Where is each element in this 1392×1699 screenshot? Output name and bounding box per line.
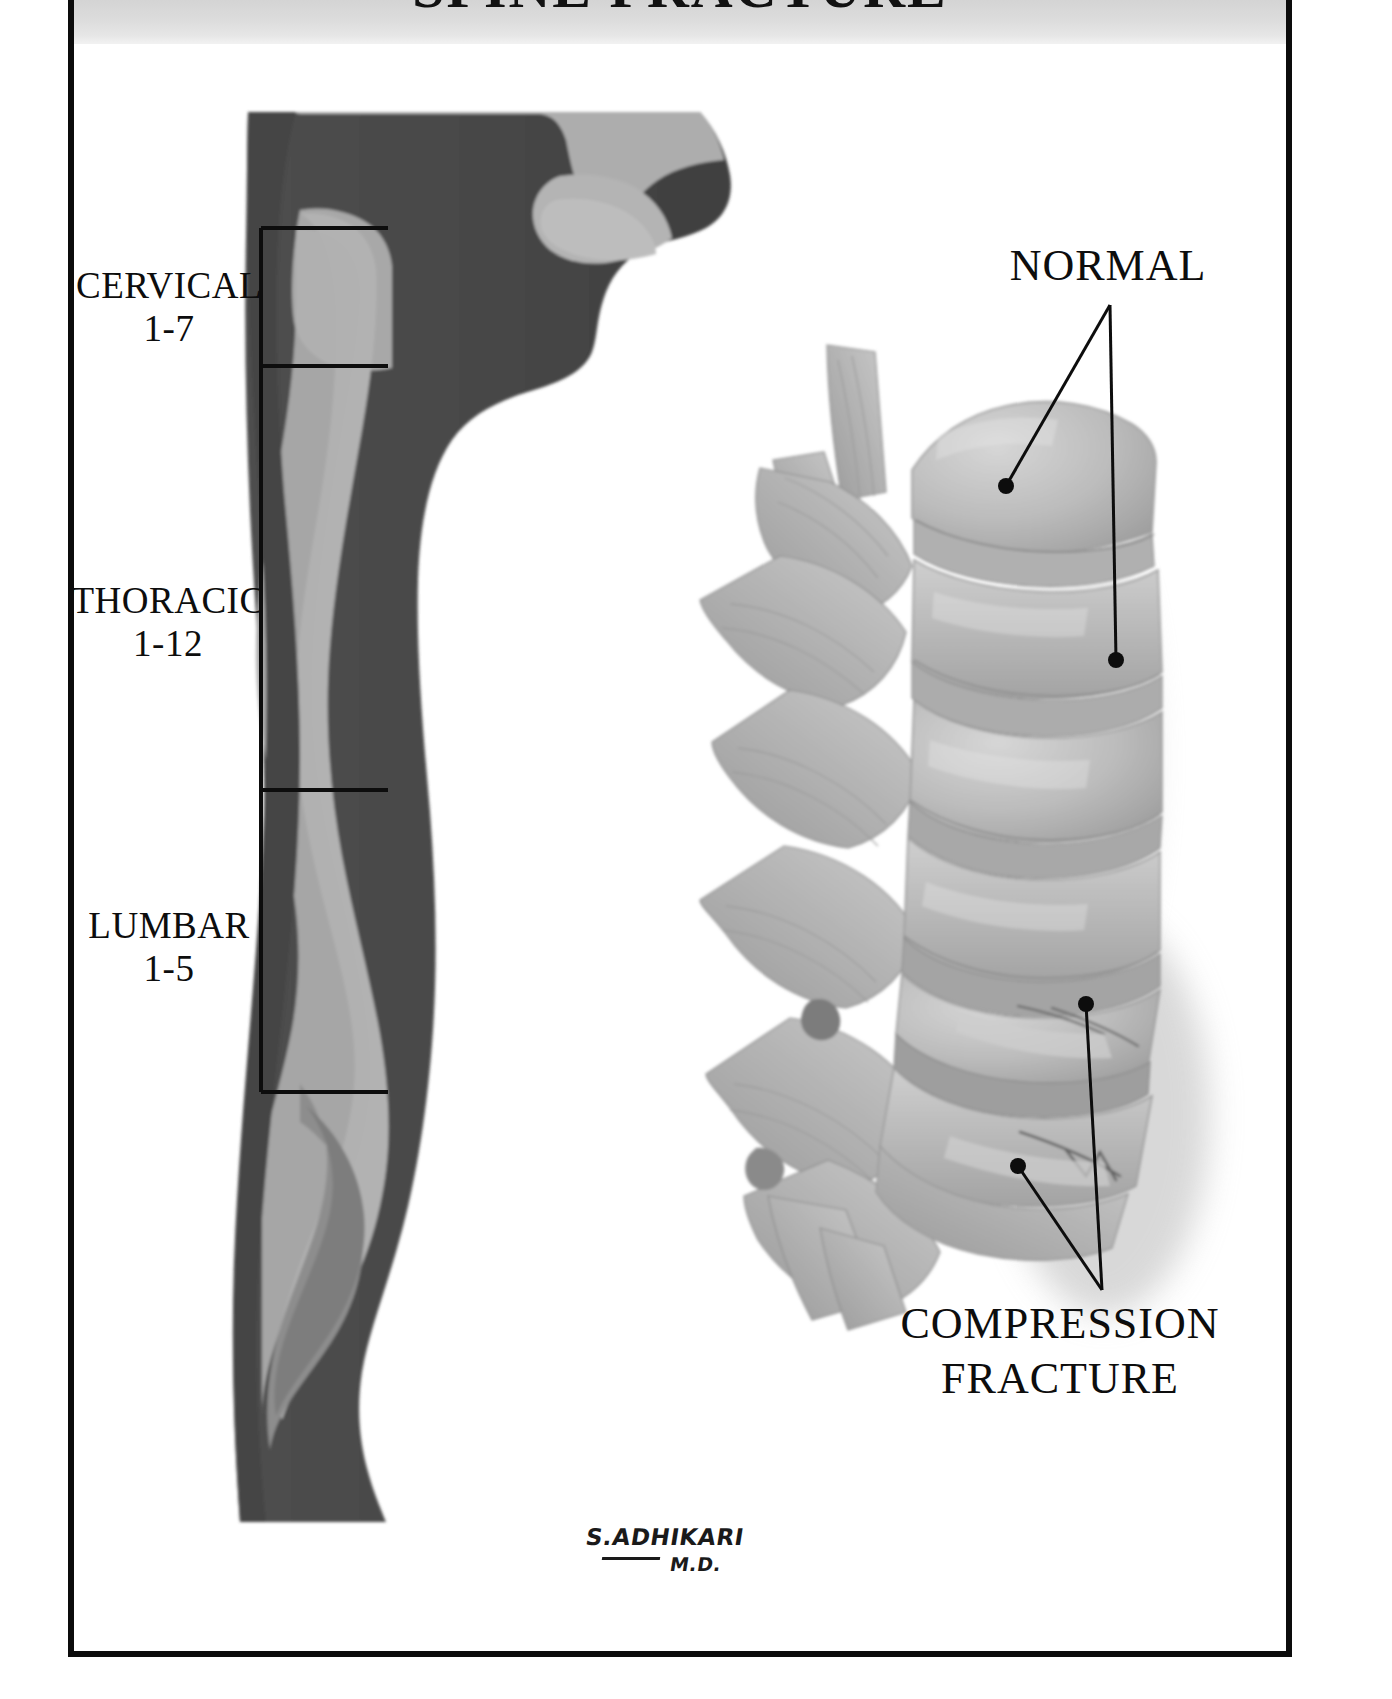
signature-name: S.ADHIKARI: [584, 1524, 778, 1550]
label-cervical-name: CERVICAL: [64, 265, 274, 308]
label-thoracic-name: THORACIC: [58, 580, 278, 623]
label-normal: NORMAL: [988, 240, 1228, 291]
signature-underline: [602, 1557, 660, 1560]
label-lumbar-range: 1-5: [64, 948, 274, 991]
label-cervical: CERVICAL 1-7: [64, 265, 274, 351]
label-thoracic: THORACIC 1-12: [58, 580, 278, 666]
label-lumbar-name: LUMBAR: [64, 905, 274, 948]
poster-canvas: SPINE FRACTURE: [0, 0, 1392, 1699]
signature-credential: M.D.: [668, 1553, 777, 1575]
label-lumbar: LUMBAR 1-5: [64, 905, 274, 991]
label-compression-line1: COMPRESSION: [860, 1296, 1260, 1351]
label-compression-line2: FRACTURE: [860, 1351, 1260, 1406]
label-thoracic-range: 1-12: [58, 623, 278, 666]
header-band: SPINE FRACTURE: [68, 0, 1292, 44]
label-cervical-range: 1-7: [64, 308, 274, 351]
artist-signature: S.ADHIKARI M.D.: [586, 1524, 776, 1575]
page-title: SPINE FRACTURE: [68, 0, 1292, 21]
label-compression-fracture: COMPRESSION FRACTURE: [860, 1296, 1260, 1406]
